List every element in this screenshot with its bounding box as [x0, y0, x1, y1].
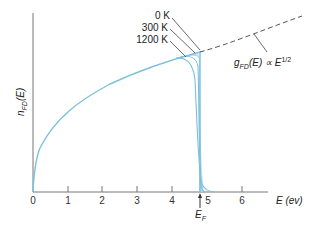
label-300k: 300 K [142, 22, 168, 33]
fermi-arrow-icon [198, 193, 202, 198]
temperature-leaders [170, 18, 200, 57]
x-tick-6: 6 [239, 195, 245, 206]
fermi-energy-label: EF [195, 209, 207, 222]
fermi-dirac-chart: 0 1 2 3 4 5 6 E (ev) EF nFD(E) 0 K 300 K… [0, 0, 318, 234]
curve-1200k [176, 58, 214, 192]
x-tick-2: 2 [99, 195, 105, 206]
label-1200k: 1200 K [136, 34, 168, 45]
x-tick-0: 0 [30, 195, 36, 206]
x-ticks [68, 186, 242, 192]
x-axis-label: E (ev) [276, 195, 303, 206]
x-tick-4: 4 [169, 195, 175, 206]
x-tick-5: 5 [205, 195, 211, 206]
x-tick-3: 3 [134, 195, 140, 206]
curve-0k [33, 52, 200, 192]
y-axis-label: nFD(E) [15, 88, 28, 116]
label-0k: 0 K [155, 10, 170, 21]
gfd-leader [254, 34, 267, 52]
x-tick-1: 1 [65, 195, 71, 206]
thermal-spread-fill [186, 54, 204, 192]
density-of-states-dashed [200, 16, 302, 52]
gfd-label: gFD(E) ∝ E1/2 [234, 56, 291, 70]
